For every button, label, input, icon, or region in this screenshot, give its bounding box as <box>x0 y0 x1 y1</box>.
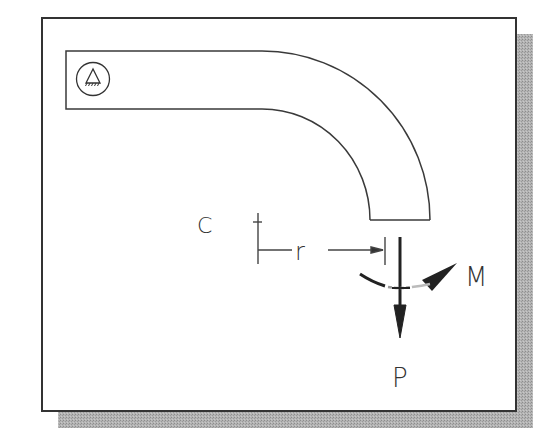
load-label: P <box>392 363 408 393</box>
diagram-canvas: C r P M <box>0 0 554 446</box>
diagram-frame <box>42 18 516 411</box>
radius-label: r <box>295 238 305 266</box>
moment-label: M <box>465 262 487 292</box>
center-label: C <box>197 213 212 238</box>
